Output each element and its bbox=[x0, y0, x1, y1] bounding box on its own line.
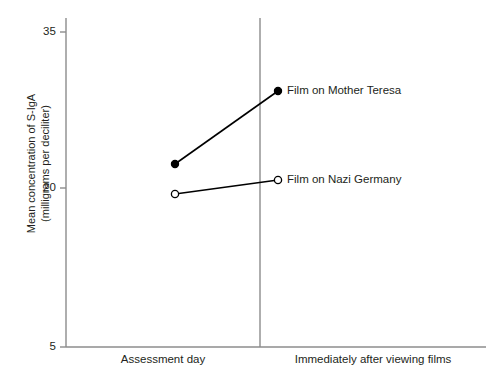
x-axis-label-after-viewing: Immediately after viewing films bbox=[260, 353, 486, 365]
y-tick-label-35: 35 bbox=[26, 25, 56, 37]
series-line-mother-teresa bbox=[175, 91, 278, 164]
data-point-mother-teresa-after bbox=[274, 87, 281, 94]
chart-plot-area bbox=[0, 0, 498, 378]
x-axis-label-assessment-day: Assessment day bbox=[66, 353, 260, 365]
y-tick-label-5: 5 bbox=[26, 340, 56, 352]
series-line-nazi-germany bbox=[175, 180, 278, 194]
series-label-nazi-germany: Film on Nazi Germany bbox=[287, 173, 401, 185]
y-axis-title: Mean concentration of S-IgA (milligrams … bbox=[25, 64, 52, 264]
data-point-nazi-germany-after bbox=[274, 176, 281, 183]
data-point-mother-teresa-assessment bbox=[171, 160, 178, 167]
y-axis-title-line1: Mean concentration of S-IgA bbox=[25, 64, 39, 264]
chart-container: 35 20 5 Mean concentration of S-IgA (mil… bbox=[0, 0, 498, 378]
y-axis-title-line2: (milligrams per deciliter) bbox=[38, 64, 52, 264]
series-label-mother-teresa: Film on Mother Teresa bbox=[287, 84, 401, 96]
data-point-nazi-germany-assessment bbox=[171, 190, 178, 197]
